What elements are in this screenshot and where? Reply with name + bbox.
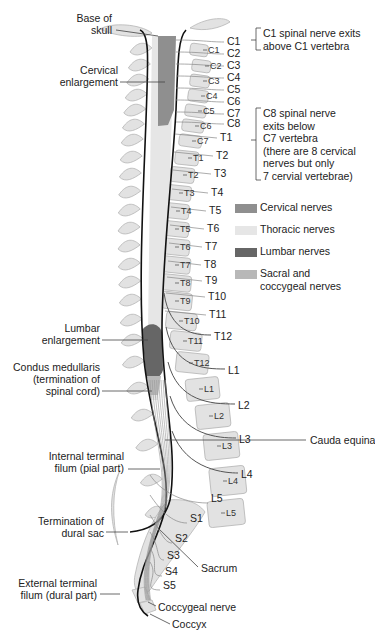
vertebra-label-c3: C3 (208, 75, 220, 87)
spinous-process (127, 74, 149, 86)
nerve-label-t12: T12 (214, 330, 232, 342)
label-sacrum: Sacrum (201, 562, 237, 574)
vertebra-label-t8: T8 (180, 277, 191, 289)
label-lumbar-enlargement: Lumbar enlargement (10, 322, 100, 346)
legend-label-line: Sacral and (260, 267, 341, 280)
label-line: Cervical (20, 64, 118, 76)
label-coccyx: Coccyx (172, 618, 206, 630)
spinous-process (118, 204, 140, 216)
note-line: exits below (263, 120, 356, 133)
note-c8: C8 spinal nerve exits below C7 vertebra … (263, 107, 356, 182)
nerve-label-s2: S2 (175, 532, 188, 544)
spinous-process (140, 474, 162, 486)
vertebra-label-l2: L2 (214, 410, 224, 422)
nerve-label-t11: T11 (209, 308, 226, 320)
spinous-process (131, 409, 153, 421)
note-line: C8 spinal nerve (263, 107, 356, 120)
spinous-process (119, 276, 141, 288)
legend-swatch (235, 226, 257, 235)
label-line: filum (pial part) (10, 462, 124, 474)
note-line: 7 cervial vertebrae) (263, 170, 356, 183)
nerve-label-c8: C8 (227, 117, 240, 129)
spinous-process (118, 222, 140, 234)
legend-label: Thoracic nerves (260, 223, 335, 236)
label-line: Internal terminal (10, 450, 124, 462)
nerve-label-t9: T9 (205, 274, 217, 286)
nerve-label-c1: C1 (227, 35, 240, 47)
label-base-of-skull: Base of skull (20, 12, 112, 36)
vertebra-label-t1: T1 (193, 152, 204, 164)
cervical-enlargement-shading (158, 36, 176, 126)
vertebra-label-t5: T5 (180, 223, 191, 235)
label-coccygeal-nerve: Coccygeal nerve (158, 601, 236, 613)
vertebra-label-t11: T11 (188, 335, 203, 347)
nerve-label-c3: C3 (227, 59, 240, 71)
bracket-c1-note (251, 28, 261, 50)
spinous-process (121, 134, 143, 146)
legend-swatch (235, 204, 257, 213)
vertebra-label-t6: T6 (180, 241, 191, 253)
spinous-process (122, 119, 144, 131)
note-line: above C1 vertebra (263, 40, 360, 53)
label-line: filum (dural part) (0, 589, 97, 601)
legend-label: Sacral and coccygeal nerves (260, 267, 341, 293)
vertebra-label-c2: C2 (210, 60, 222, 72)
vertebra-label-t2: T2 (188, 169, 199, 181)
vertebra-label-c1: C1 (208, 44, 220, 56)
vertebra-label-c4: C4 (206, 90, 218, 102)
label-line: External terminal (0, 577, 97, 589)
nerve-label-t10: T10 (208, 290, 226, 302)
label-conus-medullaris: Condus medullaris (termination of spinal… (0, 361, 100, 397)
skull-base-right (190, 19, 230, 30)
label-line: skull (20, 24, 112, 36)
label-line: (termination of (0, 373, 100, 385)
posterior-sacral-crest (112, 470, 121, 545)
spinous-process (119, 168, 141, 180)
vertebra-label-l5: L5 (226, 507, 236, 519)
spinous-process (122, 356, 144, 368)
nerve-label-c4: C4 (227, 71, 240, 83)
vertebra-label-l4: L4 (228, 475, 238, 487)
vertebra-label-l1: L1 (204, 383, 214, 395)
spinous-process (125, 89, 147, 101)
label-line: dural sac (10, 527, 104, 539)
leader-coccyx (150, 614, 170, 624)
nerve-label-c6: C6 (227, 95, 240, 107)
label-line: spinal cord) (0, 385, 100, 397)
nerve-label-l2: L2 (238, 399, 250, 411)
label-line: Condus medullaris (0, 361, 100, 373)
bracket-c8-note (251, 108, 261, 180)
legend-label: Lumbar nerves (260, 245, 330, 258)
nerve-label-s5: S5 (163, 579, 176, 591)
note-c1: C1 spinal nerve exits above C1 vertebra (263, 27, 360, 52)
nerve-label-t6: T6 (207, 222, 219, 234)
label-line: enlargement (10, 334, 100, 346)
label-line: Lumbar (10, 322, 100, 334)
nerve-label-c2: C2 (227, 47, 240, 59)
spinous-process (124, 104, 146, 116)
spinous-process (119, 186, 141, 198)
vertebra-label-c7: C7 (197, 135, 209, 147)
nerve-label-t2: T2 (216, 149, 228, 161)
nerve-label-s3: S3 (167, 549, 180, 561)
vertebra-label-t9: T9 (180, 295, 191, 307)
nerve-label-s4: S4 (165, 565, 178, 577)
spinous-process (119, 294, 141, 306)
vertebra-label-t4: T4 (181, 205, 192, 217)
legend-swatch (235, 270, 257, 279)
note-line: nerves but only (263, 157, 356, 170)
nerve-label-t4: T4 (211, 186, 223, 198)
vertebra-label-t3: T3 (184, 187, 195, 199)
legend-swatch (235, 248, 257, 257)
note-line: C7 vertebra (263, 132, 356, 145)
nerve-label-l5: L5 (211, 492, 223, 504)
vertebra-label-c5: C5 (203, 105, 215, 117)
nerve-label-l3: L3 (239, 433, 251, 445)
vertebra-label-l3: L3 (222, 440, 232, 452)
nerve-label-t3: T3 (214, 167, 226, 179)
nerve-label-t8: T8 (204, 258, 216, 270)
nerve-label-c5: C5 (227, 83, 240, 95)
vertebra-label-t7: T7 (180, 259, 191, 271)
label-termination-dural-sac: Termination of dural sac (10, 515, 104, 539)
label-cervical-enlargement: Cervical enlargement (20, 64, 118, 88)
